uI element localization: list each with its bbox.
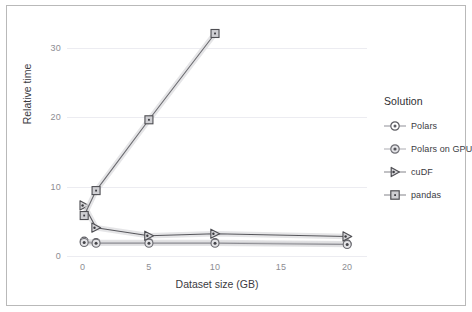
chart-screenshot: Relative time Dataset size (GB) 0 10 20 … bbox=[0, 0, 472, 312]
legend-label-polars-on-gpu: Polars on GPU bbox=[411, 144, 472, 154]
x-tick-label-15: 15 bbox=[276, 262, 286, 272]
legend-item-polars-on-gpu[interactable]: Polars on GPU bbox=[384, 139, 468, 159]
legend-label-polars: Polars bbox=[411, 121, 437, 131]
legend-item-pandas[interactable]: pandas bbox=[384, 185, 468, 205]
y-tick-label-20: 20 bbox=[21, 112, 61, 122]
y-tick-label-30: 30 bbox=[21, 43, 61, 53]
legend-title: Solution bbox=[384, 95, 468, 107]
legend-item-cudf[interactable]: cuDF bbox=[384, 162, 468, 182]
legend: Solution Polars Polars on GPU c bbox=[384, 95, 468, 208]
x-tick-label-5: 5 bbox=[146, 262, 151, 272]
legend-label-pandas: pandas bbox=[411, 190, 441, 200]
triangle-right-icon bbox=[384, 165, 406, 179]
x-tick-label-20: 20 bbox=[342, 262, 352, 272]
y-tick-label-10: 10 bbox=[21, 182, 61, 192]
y-tick-label-0: 0 bbox=[21, 251, 61, 261]
x-tick-label-0: 0 bbox=[80, 262, 85, 272]
square-dot-icon bbox=[384, 188, 406, 202]
x-axis-title: Dataset size (GB) bbox=[67, 278, 367, 290]
legend-item-polars[interactable]: Polars bbox=[384, 116, 468, 136]
legend-label-cudf: cuDF bbox=[411, 167, 433, 177]
circle-dot-icon bbox=[384, 119, 406, 133]
y-axis-title: Relative time bbox=[21, 39, 33, 149]
circle-dot-filled-icon bbox=[384, 142, 406, 156]
data-series-layer bbox=[67, 20, 367, 256]
plot-area: 0 10 20 30 0 5 10 15 20 bbox=[67, 20, 367, 256]
x-tick-label-10: 10 bbox=[210, 262, 220, 272]
gridline-0 bbox=[67, 256, 367, 257]
